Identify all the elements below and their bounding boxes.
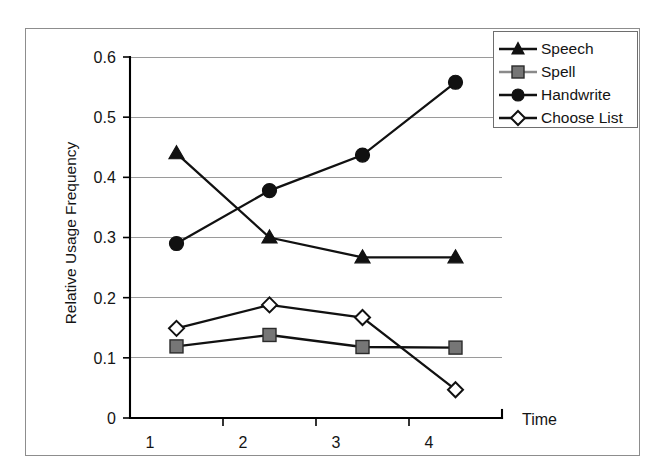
legend-item-spell[interactable]: Spell [498,60,637,83]
legend-item-speech[interactable]: Speech [498,37,637,60]
data-point [262,297,277,312]
legend-marker-open-diamond-icon [498,108,538,128]
legend-marker-filled-square-icon [498,62,538,82]
legend-label-handwrite: Handwrite [541,86,611,104]
legend-item-choose-list[interactable]: Choose List [498,106,637,129]
legend-label-spell: Spell [541,63,575,81]
legend-label-choose-list: Choose List [541,109,623,127]
series-layer [169,75,463,397]
data-point [169,321,184,336]
data-point [170,340,183,353]
data-point [356,148,370,162]
gridlines [130,57,502,358]
data-point [169,146,184,159]
series-spell [170,328,462,354]
legend-item-handwrite[interactable]: Handwrite [498,83,637,106]
data-point [263,184,277,198]
legend-label-speech: Speech [541,40,594,58]
series-speech [169,146,463,263]
legend-marker-filled-triangle-icon [498,39,538,59]
chart-legend: Speech Spell Handwrite Choose List [493,31,638,128]
series-handwrite [170,75,463,250]
data-point [356,341,369,354]
data-point [263,328,276,341]
data-point [449,75,463,89]
data-point [170,237,184,251]
data-point [449,341,462,354]
legend-marker-filled-circle-icon [498,85,538,105]
